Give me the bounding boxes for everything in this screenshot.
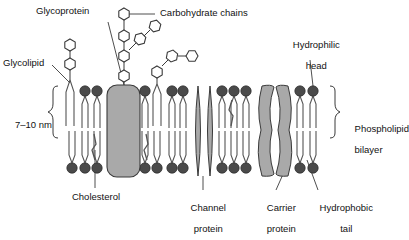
label-channel-protein-line2: protein [194,223,223,234]
hydrophilic-head [92,163,102,173]
phospholipid [308,131,318,173]
phospholipid [167,131,177,173]
label-cholesterol: Cholesterol [60,192,132,203]
phospholipid [152,131,162,173]
label-channel-protein-line1: Channel [191,202,226,213]
phospholipid [167,86,177,128]
label-carrier-protein-line2: protein [267,223,296,234]
hexagon [152,66,162,78]
hydrophilic-head [80,163,90,173]
hydrophilic-head [295,86,305,96]
hydrophilic-head [308,163,318,173]
label-glycolipid: Glycolipid [3,58,44,69]
label-carrier-protein-line1: Carrier [267,202,296,213]
label-hydrophilic-head: Hydrophilic head [276,29,346,82]
hydrophilic-head [229,86,239,96]
phospholipid [67,131,77,173]
phospholipid [217,86,227,128]
label-channel-protein: Channel protein [174,192,232,240]
hydrophilic-head [152,163,162,173]
label-phospholipid-bilayer-line2: bilayer [355,144,383,155]
carrier-protein-body [258,85,292,176]
hydrophilic-head [92,86,102,96]
hexagon [119,30,129,42]
phospholipid [92,131,102,173]
hydrophilic-head [241,86,251,96]
phospholipid [308,86,318,128]
label-phospholipid-bilayer: Phospholipid bilayer [344,113,406,166]
phospholipid [80,131,90,173]
phospholipid [140,86,150,128]
phospholipid [295,131,305,173]
hydrophilic-head [167,86,177,96]
hexagon [186,51,198,61]
hexagon [119,70,129,82]
hydrophilic-head [178,86,188,96]
hexagon [147,18,163,34]
label-carrier-protein: Carrier protein [248,192,304,240]
bilayer-brace [330,86,340,138]
label-thickness: 7–10 nm [0,120,52,131]
phospholipid [178,86,188,128]
label-carbohydrate-chains: Carbohydrate chains [160,8,248,19]
label-hydrophobic-tail-line2: tail [340,223,352,234]
hydrophilic-head [167,163,177,173]
label-phospholipid-bilayer-line1: Phospholipid [355,123,409,134]
phospholipid [80,86,90,128]
hydrophilic-head [178,163,188,173]
phospholipid [241,131,251,173]
label-glycoprotein: Glycoprotein [36,6,89,17]
phospholipid [241,86,251,128]
hexagon [65,58,75,70]
label-hydrophilic-head-line2: head [306,60,327,71]
label-hydrophilic-head-line1: Hydrophilic [293,39,340,50]
channel-protein-body [196,86,213,176]
hexagon [119,8,129,20]
hydrophilic-head [308,86,318,96]
label-hydrophobic-tail-line1: Hydrophobic [320,202,373,213]
membrane-diagram: Glycoprotein Carbohydrate chains Glycoli… [0,0,407,229]
phospholipid [295,86,305,128]
hydrophilic-head [217,86,227,96]
hydrophilic-head [140,86,150,96]
hexagon [119,50,129,62]
hydrophilic-head [140,163,150,173]
label-hydrophobic-tail: Hydrophobic tail [306,192,376,240]
hexagon [65,39,75,51]
hydrophilic-head [217,163,227,173]
hydrophilic-head [229,163,239,173]
hydrophilic-head [67,163,77,173]
hydrophilic-head [80,86,90,96]
phospholipid [178,131,188,173]
phospholipid [92,86,102,128]
phospholipid [229,131,239,173]
hydrophilic-head [295,163,305,173]
hydrophilic-head [241,163,251,173]
glycoprotein-body [107,85,140,177]
phospholipid [217,131,227,173]
